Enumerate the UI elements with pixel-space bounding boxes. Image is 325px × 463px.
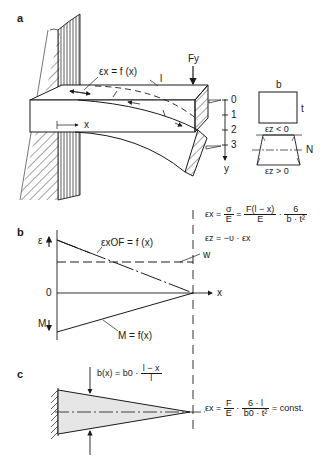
diagram-canvas	[0, 0, 325, 463]
moment-axis-label: M	[38, 319, 46, 329]
panel-c-label: c	[17, 368, 23, 380]
panel-a-drawing	[20, 14, 303, 200]
x-label-b: x	[217, 288, 222, 298]
cs-neutral-label: N	[306, 145, 313, 155]
origin-label: 0	[46, 288, 52, 298]
y-axis-label: y	[224, 164, 229, 174]
x-label-a: x	[84, 120, 89, 130]
formula-b-line1: εx = σE = F(l − x)E · 6b · t²	[205, 205, 307, 224]
force-label: Fy	[188, 54, 199, 64]
panel-b-label: b	[17, 226, 24, 238]
frac-section-c: 6 · lb0 · t²	[242, 399, 270, 418]
frac-width: l − xl	[141, 364, 162, 383]
frac-section: 6b · t²	[284, 205, 307, 224]
cs-width-label: b	[276, 80, 282, 90]
frac-moment-E: F(l − x)E	[244, 205, 276, 224]
w-label: w	[203, 250, 210, 260]
epsilon-axis-label: ε	[38, 236, 42, 246]
moment-curve	[57, 293, 193, 332]
cs-thickness-label: t	[301, 104, 304, 114]
y-tick-3: 3	[231, 140, 237, 150]
frac-F-E: FE	[224, 399, 234, 418]
formula-b-line2: εz = −υ · εx	[205, 234, 250, 243]
formula-b-lhs: εx =	[205, 209, 221, 219]
y-tick-1: 1	[231, 110, 237, 120]
y-tick-0: 0	[231, 95, 237, 105]
cs-tension-label: εz > 0	[265, 167, 289, 176]
strain-curve-label: εxOF = f (x)	[101, 238, 153, 248]
moment-curve-label: M = f(x)	[118, 331, 152, 341]
length-label: l	[160, 74, 162, 84]
y-axis-scale	[222, 99, 228, 160]
width-formula: b(x) = b0 · l − xl	[97, 364, 162, 383]
frac-sigma-E: σE	[224, 205, 234, 224]
c-wall-hatching	[51, 388, 58, 439]
strain-label-a: εx = f (x)	[99, 67, 137, 77]
strain-formula-c: εx = FE · 6 · lb0 · t² = const.	[205, 399, 304, 418]
y-tick-2: 2	[231, 125, 237, 135]
cs-compression-label: εz < 0	[265, 125, 289, 134]
panel-a-label: a	[17, 12, 23, 24]
